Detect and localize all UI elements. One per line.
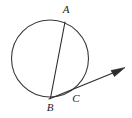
main-circle xyxy=(12,20,89,97)
chord-ab xyxy=(51,22,66,98)
secant-ray-bc xyxy=(49,72,115,99)
geometry-canvas: A B C xyxy=(0,0,132,118)
geometry-figure: A B C xyxy=(0,0,132,118)
point-label-b: B xyxy=(47,101,54,113)
arrow-head-icon xyxy=(111,68,125,77)
point-label-c: C xyxy=(72,92,80,104)
point-label-a: A xyxy=(62,3,70,15)
